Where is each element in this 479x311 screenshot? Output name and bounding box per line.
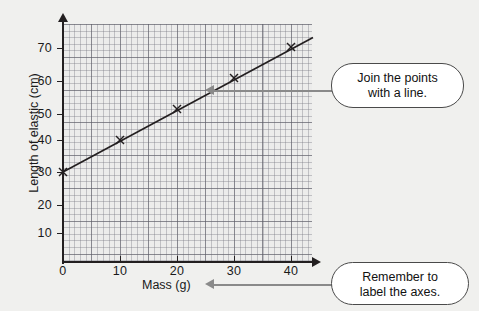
callout-join-line2: with a line.	[342, 86, 453, 101]
y-axis-title: Length of elastic (cm)	[27, 53, 41, 213]
callout-label-the-axes: Remember to label the axes.	[331, 262, 469, 305]
y-tick-label-10: 10	[12, 226, 52, 240]
y-axis-arrow-icon	[58, 13, 68, 22]
callout-label-line1: Remember to	[342, 270, 458, 285]
callout-join-arrow-icon	[205, 85, 214, 95]
x-tick-label-20: 20	[162, 264, 192, 278]
callout-label-arrow-icon	[205, 279, 214, 289]
x-axis-title: Mass (g)	[142, 278, 191, 292]
x-tick-30	[234, 256, 235, 262]
y-tick-70	[57, 48, 63, 49]
x-tick-label-0: 0	[48, 264, 78, 278]
y-tick-40	[57, 140, 63, 141]
x-axis-line	[62, 261, 314, 263]
callout-label-line2: label the axes.	[342, 285, 458, 300]
x-tick-label-30: 30	[219, 264, 249, 278]
y-axis-line	[62, 20, 64, 264]
callout-join-line1: Join the points	[342, 71, 453, 86]
y-tick-50	[57, 114, 63, 115]
worksheet-graph-page: 70 60 50 40 30 20 10 0 10 20 30 40 Lengt…	[0, 0, 479, 311]
callout-join-pointer-line	[213, 90, 332, 92]
x-tick-40	[291, 256, 292, 262]
x-tick-10	[120, 256, 121, 262]
y-tick-60	[57, 81, 63, 82]
y-tick-20	[57, 205, 63, 206]
y-tick-10	[57, 233, 63, 234]
x-tick-label-40: 40	[276, 264, 306, 278]
callout-label-pointer-line	[213, 284, 332, 286]
plot-grid-area	[63, 24, 312, 262]
x-tick-0	[63, 256, 64, 262]
callout-join-the-points: Join the points with a line.	[331, 63, 464, 108]
x-axis-arrow-icon	[312, 257, 321, 267]
x-tick-label-10: 10	[105, 264, 135, 278]
y-tick-30	[57, 172, 63, 173]
x-tick-20	[177, 256, 178, 262]
